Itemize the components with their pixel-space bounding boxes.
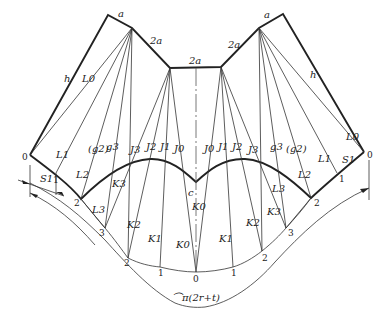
point-3-right: 3 <box>288 228 294 238</box>
point-3-left: 3 <box>99 228 105 238</box>
label-S1-left: S1 <box>40 173 53 184</box>
outline-top <box>30 14 364 155</box>
point-2-left: 2 <box>74 198 80 208</box>
label-S1-right: S1 <box>342 154 355 165</box>
point-0-bottom: 0 <box>193 274 199 284</box>
label-L3-left: L3 <box>91 204 105 215</box>
arrow-left-outer <box>30 193 38 198</box>
label-J2-left: J2 <box>144 141 156 152</box>
reference-right <box>360 160 369 200</box>
point-0-right: 0 <box>367 150 373 160</box>
label-J0-left: J0 <box>172 143 185 154</box>
label-L2-left: L2 <box>75 169 89 180</box>
point-1-right-lower: 1 <box>231 268 237 278</box>
label-arc-length: ⌒π(2r+t) <box>172 292 220 303</box>
label-K2-left: K2 <box>126 219 141 230</box>
label-L3-right: L3 <box>271 183 285 194</box>
label-K1-left: K1 <box>147 233 162 244</box>
label-K1-right: K1 <box>218 233 233 244</box>
point-1-left: 1 <box>53 175 59 185</box>
label-K2-right: K2 <box>245 217 260 228</box>
label-g2-right: (g2) <box>286 143 307 154</box>
point-0-left: 0 <box>22 152 28 162</box>
point-2-right: 2 <box>314 198 320 208</box>
point-2-right-lower: 2 <box>262 253 268 263</box>
label-K3-left: K3 <box>111 178 126 189</box>
label-J3-right: J3 <box>246 144 258 155</box>
label-a-right: a <box>264 9 270 20</box>
label-2a-right: 2a <box>227 39 240 50</box>
label-g3-left: g3 <box>106 141 119 152</box>
label-2a-center: 2a <box>188 55 201 66</box>
label-L0-right: L0 <box>345 131 360 142</box>
label-L0-left: L0 <box>81 73 96 84</box>
label-2a-left: 2a <box>149 35 162 46</box>
label-a-left: a <box>118 8 124 19</box>
label-L1-left: L1 <box>55 149 69 160</box>
development-diagram: a 2a 2a 2a a h h L0 L1 (g2) g3 L2 K3 L3 … <box>0 0 379 325</box>
right-inner-fan-lines <box>196 67 311 272</box>
label-h-right: h <box>310 69 316 80</box>
label-L2-right: L2 <box>297 169 311 180</box>
label-J1-left: J1 <box>158 141 170 152</box>
point-2-left-lower: 2 <box>124 258 130 268</box>
label-L1-right: L1 <box>317 153 331 164</box>
label-J3-left: J3 <box>128 144 140 155</box>
label-g3-right: g3 <box>270 141 283 152</box>
label-c: c <box>188 187 194 198</box>
label-K0-center: K0 <box>191 201 206 212</box>
label-J1-right: J1 <box>216 141 228 152</box>
point-1-right: 1 <box>339 174 345 184</box>
offset-curve-left <box>30 193 95 245</box>
label-K0-left: K0 <box>175 239 190 250</box>
label-h-left: h <box>64 73 70 84</box>
point-1-left-lower: 1 <box>158 268 164 278</box>
label-J2-right: J2 <box>230 141 242 152</box>
label-K3-right: K3 <box>266 206 281 217</box>
label-J0-right: J0 <box>202 143 215 154</box>
